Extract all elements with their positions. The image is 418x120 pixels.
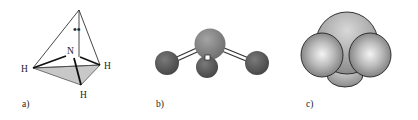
sf-left-atom [301, 33, 343, 77]
bond-front [205, 55, 210, 60]
sf-right-atom [349, 33, 391, 77]
outer-atom-left [155, 51, 179, 75]
atom-label-n: N [67, 46, 74, 56]
atom-label-h-left: H [21, 64, 28, 74]
molecule-figure: •• N H H H a) b) [0, 0, 418, 120]
panel-c-space-filling: c) [301, 12, 391, 110]
atom-label-h-bottom: H [80, 90, 87, 100]
base-face [33, 65, 100, 85]
panel-a-tetrahedron: •• N H H H a) [21, 10, 111, 110]
atom-label-h-right: H [104, 61, 111, 71]
panel-label-b: b) [156, 99, 164, 110]
outer-atom-right [245, 51, 269, 75]
edge-apex-right [79, 10, 100, 65]
panel-label-a: a) [22, 99, 29, 110]
panel-label-c: c) [306, 99, 313, 110]
panel-b-ball-and-stick: b) [155, 29, 269, 111]
lone-pair-dots: •• [73, 23, 81, 35]
